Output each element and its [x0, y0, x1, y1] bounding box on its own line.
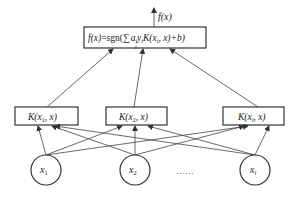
edge-k2-output — [134, 49, 143, 107]
output-label: f(x) — [158, 11, 173, 23]
edge-kl-output — [170, 49, 258, 107]
ellipsis: …… — [176, 166, 194, 176]
svm-network-diagram: f(x) f(x)=sgn(∑aiyiK(xi, x)+b) i K(x1, x… — [0, 0, 294, 199]
kernel-label-l: K(xl, x) — [237, 112, 266, 123]
edge-k1-output — [47, 49, 113, 107]
decision-function-formula: f(x)=sgn(∑aiyiK(xi, x)+b) — [88, 33, 185, 44]
input-kernel-edges — [38, 126, 269, 155]
